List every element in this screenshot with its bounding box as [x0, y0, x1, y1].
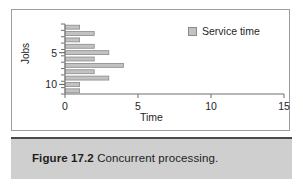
bar-job-9	[65, 76, 109, 80]
chart-frame: Jobs Time 051015 510 Service time	[11, 9, 290, 131]
figure-caption: Figure 17.2 Concurrent processing.	[32, 152, 218, 164]
bar-job-5	[65, 51, 109, 55]
figure-caption-body: Concurrent processing.	[97, 152, 218, 164]
bar-job-7	[65, 63, 123, 67]
y-tick-label-5: 5	[37, 47, 57, 59]
x-tick-label-10: 10	[205, 100, 217, 112]
legend-entry-label: Service time	[202, 25, 260, 37]
x-tick-label-0: 0	[62, 100, 68, 112]
bar-job-4	[65, 44, 94, 48]
figure-container: Jobs Time 051015 510 Service time Figure…	[0, 0, 303, 187]
y-tick-label-10: 10	[37, 78, 57, 90]
y-axis-title: Jobs	[20, 32, 31, 76]
bar-job-2	[65, 32, 94, 36]
bar-job-8	[65, 70, 94, 74]
figure-caption-label: Figure 17.2	[32, 152, 94, 164]
figure-caption-band: Figure 17.2 Concurrent processing.	[11, 137, 292, 179]
chart-legend: Service time	[188, 25, 260, 37]
bar-job-1	[65, 25, 80, 29]
bar-job-11	[65, 89, 80, 93]
x-tick-label-5: 5	[135, 100, 141, 112]
bar-job-3	[65, 38, 80, 42]
x-tick-label-15: 15	[278, 100, 290, 112]
bar-job-6	[65, 57, 94, 61]
x-axis-title: Time	[12, 111, 291, 123]
chart-area: Jobs Time 051015 510 Service time	[12, 10, 291, 132]
bar-job-10	[65, 82, 80, 86]
legend-swatch-icon	[188, 27, 197, 36]
